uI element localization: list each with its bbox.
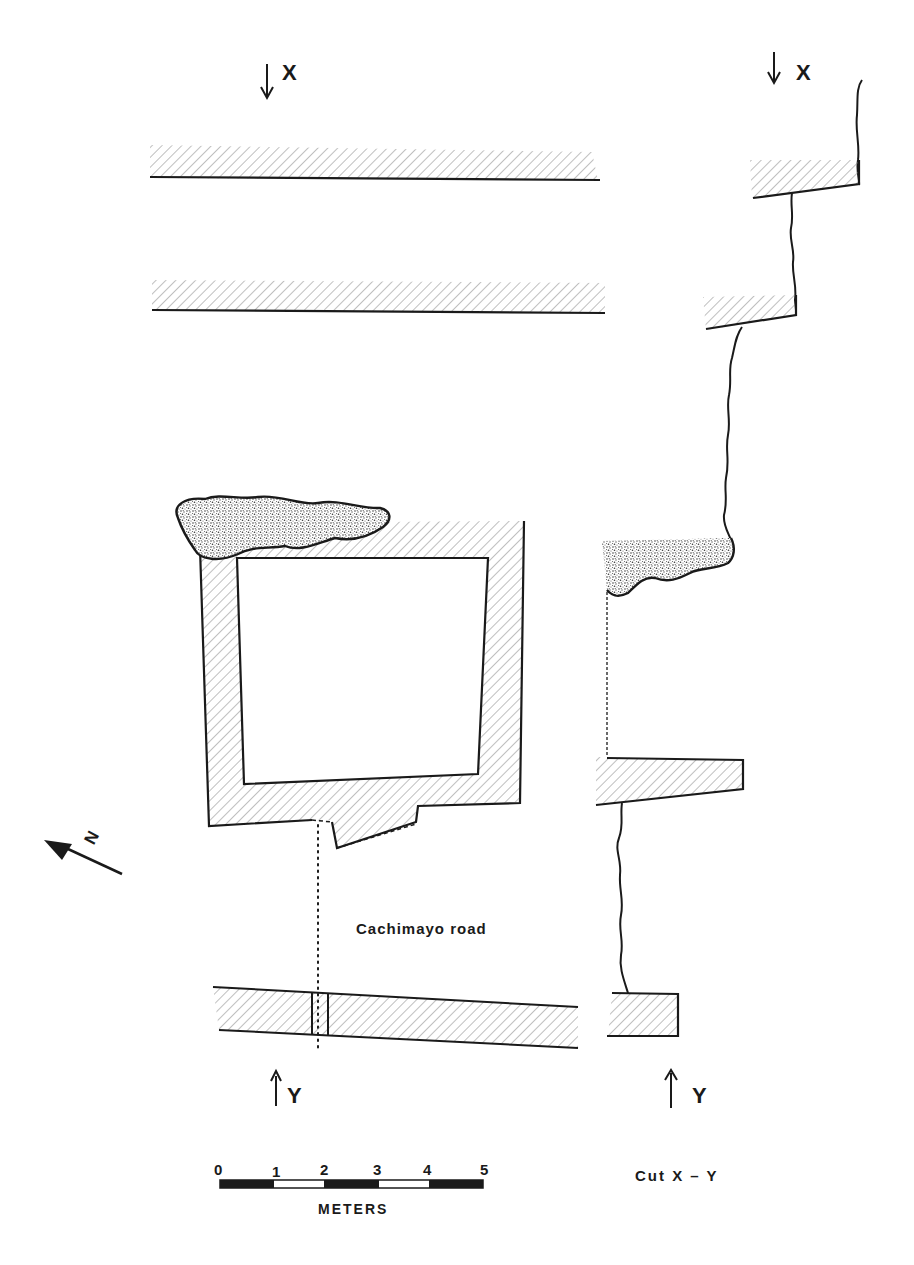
scale-tick-5: 5: [480, 1161, 488, 1178]
terrace-wall-lower: [152, 280, 605, 313]
plan-view: [44, 64, 605, 1106]
north-arrow-icon: [44, 840, 122, 874]
section-bottom-y-arrow-icon: [665, 1070, 677, 1108]
plan-marker-y: Y: [287, 1083, 302, 1109]
room-structure: [200, 521, 524, 848]
section-step-1: [750, 160, 859, 198]
site-drawing: [0, 0, 914, 1265]
section-view: [596, 52, 862, 1108]
section-marker-y-arrow-icon: [271, 1071, 281, 1106]
section-step-3: [596, 757, 743, 805]
scale-tick-2: 2: [320, 1161, 328, 1178]
section-marker-x-arrow-icon: [261, 64, 273, 98]
scale-tick-4: 4: [423, 1161, 431, 1178]
ground-profile-lower: [617, 803, 628, 993]
section-top-x-arrow-icon: [768, 52, 780, 83]
scale-tick-1: 1: [272, 1163, 280, 1180]
scale-tick-3: 3: [373, 1161, 381, 1178]
road-label: Cachimayo road: [356, 920, 487, 937]
terrace-wall-upper: [150, 145, 600, 180]
road-wall: [213, 987, 578, 1048]
scale-tick-0: 0: [214, 1161, 222, 1178]
scale-unit: METERS: [318, 1201, 388, 1217]
section-step-4: [607, 993, 678, 1036]
section-title: Cut X – Y: [635, 1167, 719, 1184]
plan-marker-x: X: [282, 60, 297, 86]
section-step-2: [703, 295, 796, 330]
scale-bar: [220, 1180, 483, 1188]
section-marker-y: Y: [692, 1083, 707, 1109]
section-marker-x: X: [796, 60, 811, 86]
